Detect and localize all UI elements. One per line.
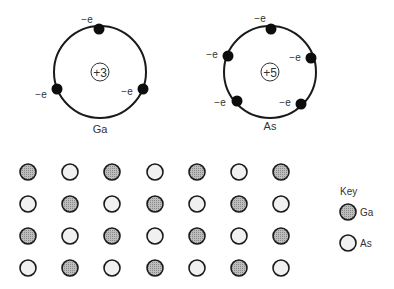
as-lattice-atom — [104, 260, 120, 276]
as-atom-model: +5 −e −e −e −e −e As — [206, 13, 316, 132]
as-key-label: As — [360, 238, 372, 249]
as-lattice-atom — [273, 196, 289, 212]
electron-label: −e — [121, 86, 133, 97]
ga-lattice-atom — [231, 196, 247, 212]
as-lattice-atom — [104, 196, 120, 212]
ga-lattice-atom — [147, 196, 163, 212]
ga-key-label: Ga — [360, 207, 374, 218]
ga-lattice-atom — [62, 196, 78, 212]
as-lattice-atom — [273, 260, 289, 276]
electron-icon — [296, 99, 307, 110]
as-lattice-atom — [20, 196, 36, 212]
ga-key-swatch — [340, 204, 356, 220]
as-lattice-atom — [231, 228, 247, 244]
ga-lattice-atom — [273, 228, 289, 244]
electron-icon — [232, 96, 243, 107]
legend: Key Ga As — [340, 186, 374, 251]
as-lattice-atom — [147, 164, 163, 180]
electron-icon — [52, 84, 63, 95]
ga-lattice-atom — [20, 228, 36, 244]
ga-lattice-atom — [273, 164, 289, 180]
as-nucleus-charge: +5 — [263, 66, 277, 80]
ga-lattice-atom — [104, 164, 120, 180]
as-lattice-atom — [189, 196, 205, 212]
as-lattice-atom — [231, 164, 247, 180]
as-atom-label: As — [264, 120, 277, 132]
ga-nucleus-charge: +3 — [93, 66, 107, 80]
gallium-arsenide-diagram: +3 −e −e −e Ga +5 −e −e −e −e −e As Key … — [0, 0, 394, 289]
as-lattice-atom — [189, 260, 205, 276]
ga-lattice-atom — [189, 164, 205, 180]
electron-label: −e — [35, 89, 47, 100]
as-lattice-atom — [62, 164, 78, 180]
electron-label: −e — [206, 49, 218, 60]
ga-lattice-atom — [62, 260, 78, 276]
electron-label: −e — [254, 13, 266, 24]
ga-lattice-atom — [147, 260, 163, 276]
electron-label: −e — [214, 97, 226, 108]
ga-lattice-atom — [231, 260, 247, 276]
as-lattice-atom — [147, 228, 163, 244]
crystal-lattice — [20, 164, 289, 276]
electron-label: −e — [81, 14, 93, 25]
ga-lattice-atom — [20, 164, 36, 180]
legend-title: Key — [340, 186, 357, 197]
as-lattice-atom — [62, 228, 78, 244]
ga-lattice-atom — [189, 228, 205, 244]
electron-icon — [94, 24, 105, 35]
electron-icon — [306, 53, 317, 64]
ga-atom-label: Ga — [93, 123, 109, 135]
electron-label: −e — [279, 97, 291, 108]
ga-atom-model: +3 −e −e −e Ga — [35, 14, 148, 135]
as-lattice-atom — [20, 260, 36, 276]
ga-lattice-atom — [104, 228, 120, 244]
electron-icon — [266, 24, 277, 35]
electron-icon — [223, 51, 234, 62]
as-key-swatch — [340, 235, 356, 251]
electron-label: −e — [289, 52, 301, 63]
electron-icon — [138, 84, 149, 95]
